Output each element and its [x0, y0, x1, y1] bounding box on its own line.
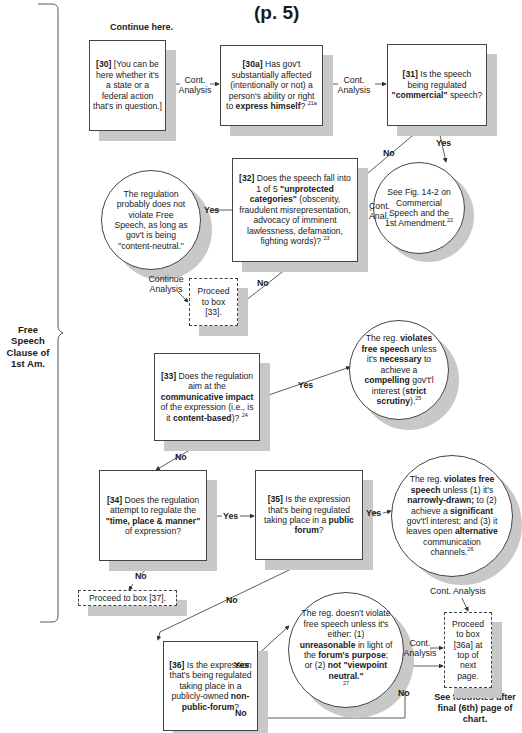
- circle-strict-scrutiny[interactable]: The reg. violates free speech unless it'…: [349, 320, 449, 420]
- edge-label-30-30a: Cont. Analysis: [174, 75, 216, 95]
- edge-label-nonpublic-p36a: Cont. Analysis: [398, 638, 442, 658]
- circle-nonpublic-forum[interactable]: The reg. doesn't violate free speech unl…: [288, 592, 404, 708]
- edge-label-34-no: No: [135, 571, 147, 581]
- proceed-to-box-36a[interactable]: Proceed to box [36a] at top of next page…: [444, 612, 492, 688]
- box-31[interactable]: [31] Is the speech being regulated "comm…: [387, 44, 487, 126]
- edge-label-36-no-left: No: [235, 708, 247, 718]
- circle-content-neutral[interactable]: The regulation probably does not violate…: [101, 170, 201, 270]
- edge-label-32-yes: Yes: [204, 205, 219, 215]
- box-35[interactable]: [35] Is the expression that's being regu…: [255, 470, 363, 560]
- box-34[interactable]: [34] Does the regulation attempt to regu…: [99, 470, 207, 561]
- box-30[interactable]: [30] [You can be here whether it's a sta…: [89, 40, 166, 131]
- edge-label-36-no-right: No: [398, 688, 410, 698]
- edge-label-33-yes: Yes: [298, 380, 313, 390]
- edge-label-neutral-p33: Continue Analysis: [143, 274, 189, 294]
- box-33[interactable]: [33] Does the regulation aim at the comm…: [154, 353, 260, 441]
- proceed-to-box-37[interactable]: Proceed to box [37].: [78, 590, 177, 606]
- edge-label-31-no: No: [383, 148, 395, 158]
- edge-label-fig-32: Cont. Anal.: [369, 201, 391, 221]
- edge-label-35-yes: Yes: [366, 508, 381, 518]
- continue-here-label: Continue here.: [110, 22, 173, 32]
- circle-time-place-manner[interactable]: The reg. violates free speech unless (1)…: [391, 455, 513, 577]
- page-title: (p. 5): [254, 2, 299, 24]
- edge-label-31-yes: Yes: [436, 138, 451, 148]
- edge-label-tpm-p36a: Cont. Analysis: [430, 586, 486, 596]
- edge-label-30a-31: Cont. Analysis: [332, 75, 376, 95]
- edge-label-34-yes: Yes: [223, 511, 238, 521]
- box-32[interactable]: [32] Does the speech fall into 1 of 5 "u…: [232, 158, 358, 262]
- box-30a[interactable]: [30a] Has gov't substantially affected (…: [220, 45, 323, 126]
- edge-label-32-no: No: [257, 278, 269, 288]
- side-label: Free Speech Clause of 1st Am.: [0, 324, 56, 370]
- edge-label-33-no: No: [175, 452, 187, 462]
- edge-label-36-yes: Yes: [234, 660, 249, 670]
- proceed-to-box-33[interactable]: Proceed to box [33].: [189, 278, 238, 326]
- edge-label-35-no: No: [226, 595, 238, 605]
